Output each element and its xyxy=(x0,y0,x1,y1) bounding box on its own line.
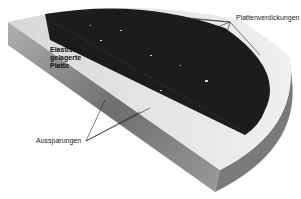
label-plattenverdickungen: Plattenverdickungen xyxy=(236,14,299,21)
label-inner-1: Elastisch xyxy=(50,46,81,54)
label-inner-2: gelagerte xyxy=(50,54,81,62)
label-inner-3: Platte xyxy=(50,62,69,70)
plate-diagram xyxy=(0,0,301,199)
label-aussparungen: Aussparungen xyxy=(36,137,81,144)
